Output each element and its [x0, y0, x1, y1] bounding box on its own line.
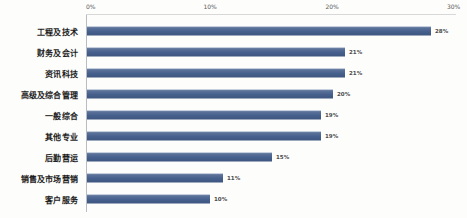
category-label: 一般综合 — [45, 109, 78, 120]
category-label: 财务及会计 — [37, 46, 78, 57]
bar-row: 后勤营运 15% — [0, 146, 467, 167]
bar — [87, 194, 210, 203]
category-label: 销售及市场营销 — [21, 172, 78, 183]
x-axis-tick-20: 20% — [325, 3, 338, 10]
bar-chart: 0% 10% 20% 30% 工程及技术 28% 财务及会计 21% 资讯科技 … — [0, 0, 467, 218]
bar-value-label: 20% — [337, 91, 350, 97]
bar-value-label: 28% — [435, 28, 448, 34]
bar-value-label: 15% — [276, 154, 289, 160]
category-label: 工程及技术 — [37, 25, 78, 36]
bar — [87, 110, 321, 119]
bar-value-label: 19% — [325, 112, 338, 118]
bar — [87, 47, 345, 56]
plot-area: 工程及技术 28% 财务及会计 21% 资讯科技 21% 高级及综合管理 20%… — [0, 15, 467, 215]
category-label: 高级及综合管理 — [21, 88, 78, 99]
bar-row: 销售及市场营销 11% — [0, 167, 467, 188]
bar-value-label: 11% — [227, 175, 240, 181]
x-axis-tick-0: 0% — [86, 3, 95, 10]
category-label: 其他专业 — [45, 130, 78, 141]
bar — [87, 26, 431, 35]
bar-value-label: 19% — [325, 133, 338, 139]
bar — [87, 152, 272, 161]
category-label: 资讯科技 — [45, 67, 78, 78]
bar-value-label: 10% — [214, 196, 227, 202]
bar — [87, 173, 223, 182]
bar-row: 工程及技术 28% — [0, 20, 467, 41]
bar — [87, 131, 321, 140]
bar — [87, 89, 333, 98]
category-label: 后勤营运 — [45, 151, 78, 162]
x-axis: 0% 10% 20% 30% — [0, 0, 467, 15]
bar-row: 客户服务 10% — [0, 188, 467, 209]
bar-row: 资讯科技 21% — [0, 62, 467, 83]
bar-row: 其他专业 19% — [0, 125, 467, 146]
bar — [87, 68, 345, 77]
x-axis-tick-30: 30% — [447, 3, 460, 10]
category-label: 客户服务 — [45, 193, 78, 204]
x-axis-tick-10: 10% — [203, 3, 216, 10]
bar-row: 一般综合 19% — [0, 104, 467, 125]
bar-row: 高级及综合管理 20% — [0, 83, 467, 104]
bar-value-label: 21% — [349, 49, 362, 55]
bar-row: 财务及会计 21% — [0, 41, 467, 62]
bar-value-label: 21% — [349, 70, 362, 76]
